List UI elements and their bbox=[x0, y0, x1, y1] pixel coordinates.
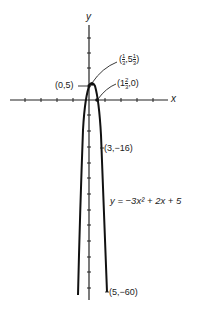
x-axis-label: x bbox=[171, 94, 176, 104]
y-axis-label: y bbox=[86, 12, 91, 22]
parabola-curve bbox=[78, 83, 107, 295]
point-0-5 bbox=[87, 84, 91, 88]
parabola-plot bbox=[0, 0, 200, 309]
label-vertex: (13,513) bbox=[119, 53, 139, 66]
label-root: (123,0) bbox=[117, 77, 139, 90]
label-3-neg16: (3,−16) bbox=[104, 143, 133, 153]
leader-vertex bbox=[92, 62, 117, 83]
label-5-neg60: (5,−60) bbox=[109, 287, 138, 297]
label-0-5: (0,5) bbox=[55, 80, 74, 90]
equation-label: y = −3x² + 2x + 5 bbox=[110, 196, 181, 206]
leader-root bbox=[98, 84, 116, 99]
